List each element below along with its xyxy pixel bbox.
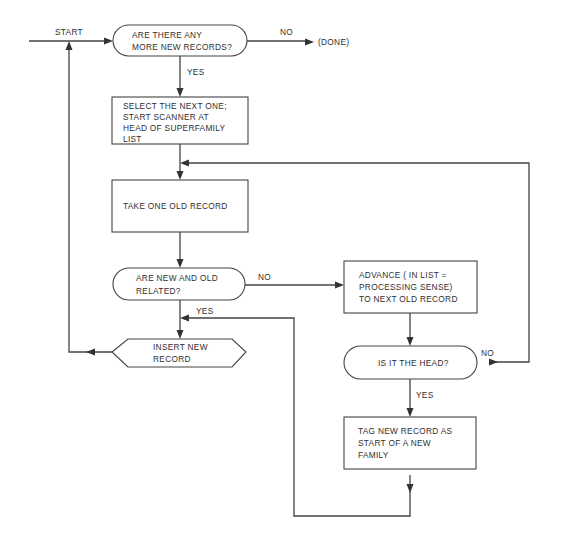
flowchart: START NO (DONE) YES NO NO YES YES ARE TH… — [0, 0, 562, 541]
node-text-line: HEAD OF SUPERFAMILY — [123, 123, 226, 133]
node-text-line: LIST — [123, 134, 142, 144]
node-advance: ADVANCE ( IN LIST = PROCESSING SENSE) TO… — [344, 261, 477, 313]
arrow-head — [407, 484, 414, 493]
arrow-head — [180, 160, 189, 167]
related-yes-label: YES — [196, 306, 214, 316]
arrow-head — [407, 337, 414, 346]
related-no-label: NO — [258, 272, 271, 282]
arrow-head — [177, 88, 184, 97]
arrow-head — [180, 315, 189, 322]
arrow-head — [335, 282, 344, 289]
node-is-head: IS IT THE HEAD? — [344, 346, 477, 379]
head-yes-label: YES — [416, 390, 434, 400]
arrow-head — [66, 41, 73, 50]
node-text-line: TAG NEW RECORD AS — [358, 426, 453, 436]
arrow-head — [489, 359, 498, 366]
node-text-line: TO NEXT OLD RECORD — [359, 294, 458, 304]
arrow-head — [177, 259, 184, 268]
arrow-head — [407, 408, 414, 417]
node-text-line: START OF A NEW — [358, 438, 431, 448]
more-no-label: NO — [280, 27, 293, 37]
node-text-line: ARE THERE ANY — [132, 30, 202, 40]
start-label: START — [55, 27, 83, 37]
arrow-head — [305, 39, 314, 46]
head-no-label: NO — [481, 348, 494, 358]
node-more-records: ARE THERE ANY MORE NEW RECORDS? — [113, 25, 247, 56]
node-select-next: SELECT THE NEXT ONE; START SCANNER AT HE… — [112, 97, 248, 144]
node-text-line: ARE NEW AND OLD — [136, 273, 218, 283]
edge-insert-to-start — [69, 48, 112, 352]
node-text-line: ADVANCE ( IN LIST = — [359, 270, 447, 280]
arrow-head — [104, 38, 113, 45]
node-text-line: MORE NEW RECORDS? — [132, 42, 232, 52]
node-text-line: RECORD — [153, 354, 191, 364]
node-take-old: TAKE ONE OLD RECORD — [112, 180, 248, 232]
node-text-line: RELATED? — [136, 286, 181, 296]
done-label: (DONE) — [318, 37, 349, 47]
node-text-line: IS IT THE HEAD? — [378, 358, 449, 368]
node-text-line: START SCANNER AT — [123, 112, 209, 122]
arrow-head — [177, 330, 184, 339]
node-related: ARE NEW AND OLD RELATED? — [113, 268, 245, 300]
node-insert-new: INSERT NEW RECORD — [112, 339, 246, 367]
node-text-line: TAKE ONE OLD RECORD — [123, 201, 228, 211]
more-yes-label: YES — [187, 67, 205, 77]
node-text-line: INSERT NEW — [153, 342, 208, 352]
arrow-head — [177, 171, 184, 180]
arrow-head — [86, 349, 95, 356]
node-text-line: FAMILY — [358, 450, 389, 460]
node-text-line: SELECT THE NEXT ONE; — [123, 101, 227, 111]
node-text-line: PROCESSING SENSE) — [359, 282, 453, 292]
node-tag-new: TAG NEW RECORD AS START OF A NEW FAMILY — [344, 417, 476, 469]
